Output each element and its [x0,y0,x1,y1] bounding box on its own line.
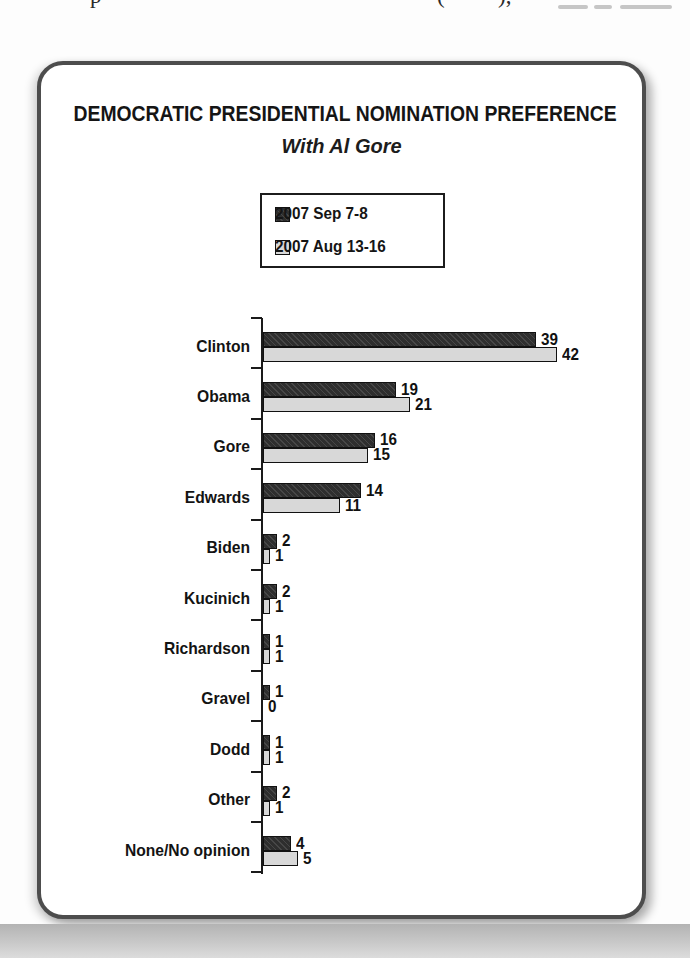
value-label-aug: 1 [275,598,283,616]
axis-tick [251,367,262,369]
axis-tick [251,569,262,571]
axis-tick [251,871,262,873]
category-label: Kucinich [37,589,250,609]
bar-chart: Clinton3942Obama1921Gore1615Edwards1411B… [263,318,633,878]
cropped-text-smudge [558,5,588,9]
legend-item-sep: 2007 Sep 7-8 [275,203,443,225]
category-label: Obama [37,387,250,407]
legend-label: 2007 Sep 7-8 [275,204,368,224]
bar-sep [263,483,361,498]
category-label: Biden [37,538,250,558]
value-label-aug: 1 [275,749,283,767]
bar-aug [263,851,298,866]
axis-tick [251,317,262,319]
value-label-aug: 1 [275,799,283,817]
value-label-aug: 0 [268,698,276,716]
category-label: Richardson [37,639,250,659]
bar-aug [263,549,270,564]
cropped-letter: ), [498,0,511,9]
bar-sep [263,836,291,851]
bar-aug [263,397,410,412]
bar-sep [263,584,277,599]
scanned-book-page: p ( ), DEMOCRATIC PRESIDENTIAL NOMINATIO… [0,0,690,958]
chart-subtitle: With Al Gore [37,135,646,158]
axis-tick [251,720,262,722]
cropped-text-fragment: p ( ), [0,0,690,13]
axis-tick [251,821,262,823]
value-label-aug: 15 [373,446,390,464]
value-label-aug: 42 [562,346,579,364]
bar-sep [263,382,396,397]
category-label: Edwards [37,488,250,508]
bar-aug [263,801,270,816]
category-label: Dodd [37,740,250,760]
axis-tick [251,771,262,773]
category-label: Gore [37,437,250,457]
category-label: Other [37,790,250,810]
cropped-text-smudge [594,5,612,9]
cropped-letter: ( [437,0,445,9]
bar-sep [263,332,536,347]
bar-aug [263,448,368,463]
legend-label: 2007 Aug 13-16 [275,237,386,257]
legend-item-aug: 2007 Aug 13-16 [275,236,443,258]
axis-tick [251,670,262,672]
bar-aug [263,347,557,362]
legend: 2007 Sep 7-8 2007 Aug 13-16 [260,193,445,268]
chart-title: DEMOCRATIC PRESIDENTIAL NOMINATION PREFE… [74,101,610,127]
value-label-aug: 1 [275,648,283,666]
value-label-aug: 5 [303,850,311,868]
value-label-aug: 21 [415,396,432,414]
bar-sep [263,735,270,750]
axis-tick [251,519,262,521]
value-label-aug: 1 [275,547,283,565]
bar-aug [263,599,270,614]
axis-tick [251,418,262,420]
cropped-text-smudge [620,5,672,9]
value-label-sep: 14 [366,482,383,500]
category-label: Gravel [37,689,250,709]
bar-aug [263,498,340,513]
bar-aug [263,649,270,664]
bar-sep [263,634,270,649]
category-label: Clinton [37,337,250,357]
category-label: None/No opinion [37,841,250,861]
bar-aug [263,750,270,765]
axis-tick [251,468,262,470]
cropped-letter: p [90,0,102,9]
value-label-aug: 11 [345,497,361,515]
bar-sep [263,433,375,448]
page-bottom-shadow [0,924,690,958]
axis-tick [251,619,262,621]
